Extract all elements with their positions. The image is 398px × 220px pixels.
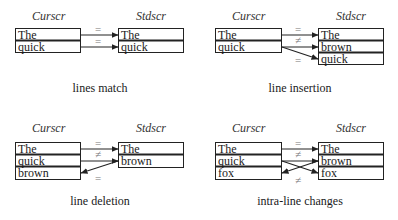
relation-arrows: = ≠ = bbox=[81, 137, 118, 184]
relation-equal: = bbox=[95, 35, 101, 47]
stdscr-line-2: brown bbox=[121, 154, 152, 168]
stdscr-line-3: fox bbox=[321, 166, 337, 180]
curscr-line-3: fox bbox=[218, 166, 234, 180]
caption: intra-line changes bbox=[257, 194, 343, 208]
stdscr-title: Stdscr bbox=[136, 121, 166, 135]
relation-arrows: = ≠ ≠ bbox=[282, 137, 318, 186]
curscr-box: The quick bbox=[216, 28, 282, 54]
curscr-title: Curscr bbox=[232, 121, 266, 135]
curscr-line-2: quick bbox=[218, 40, 245, 54]
screen-update-diagram: Curscr Stdscr The quick The quick = = li… bbox=[0, 0, 398, 220]
curscr-title: Curscr bbox=[32, 121, 66, 135]
relation-not-equal: ≠ bbox=[95, 148, 101, 160]
stdscr-line-2: quick bbox=[121, 40, 148, 54]
stdscr-title: Stdscr bbox=[336, 9, 366, 23]
stdscr-title: Stdscr bbox=[336, 121, 366, 135]
caption: line deletion bbox=[70, 194, 130, 208]
curscr-box: The quick brown bbox=[16, 142, 81, 181]
relation-not-equal: ≠ bbox=[295, 34, 301, 46]
relation-not-equal: ≠ bbox=[295, 174, 301, 186]
stdscr-box: The brown fox bbox=[319, 142, 384, 181]
curscr-box: The quick fox bbox=[216, 142, 282, 181]
curscr-title: Curscr bbox=[232, 9, 266, 23]
relation-not-equal: ≠ bbox=[295, 148, 301, 160]
caption: lines match bbox=[73, 81, 128, 95]
stdscr-box: The brown bbox=[119, 142, 184, 168]
stdscr-box: The brown quick bbox=[319, 28, 384, 66]
curscr-box: The quick bbox=[16, 28, 81, 54]
curscr-line-3: brown bbox=[18, 166, 49, 180]
relation-equal: = bbox=[95, 23, 101, 35]
panel-intra-line-changes: Curscr Stdscr The quick fox The brown fo… bbox=[216, 121, 384, 208]
stdscr-box: The quick bbox=[119, 28, 184, 54]
stdscr-title: Stdscr bbox=[136, 9, 166, 23]
panel-line-deletion: Curscr Stdscr The quick brown The brown … bbox=[16, 121, 184, 208]
relation-equal: = bbox=[95, 172, 101, 184]
relation-equal: = bbox=[295, 54, 301, 66]
panel-line-insertion: Curscr Stdscr The quick The brown quick … bbox=[216, 9, 384, 95]
caption: line insertion bbox=[269, 81, 332, 95]
relation-arrows: = = bbox=[81, 23, 118, 47]
curscr-line-2: quick bbox=[18, 40, 45, 54]
stdscr-line-3: quick bbox=[321, 52, 348, 66]
relation-arrows: = ≠ = bbox=[282, 23, 318, 66]
curscr-title: Curscr bbox=[32, 9, 66, 23]
panel-lines-match: Curscr Stdscr The quick The quick = = li… bbox=[16, 9, 184, 95]
